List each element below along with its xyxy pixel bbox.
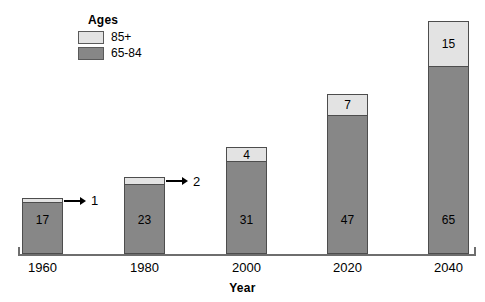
x-axis-baseline [18, 254, 476, 256]
callout-line-icon [64, 200, 80, 202]
bar-value-65-84-2000: 31 [227, 213, 266, 227]
callout-1980: 2 [166, 175, 200, 187]
callout-value-1980: 2 [193, 175, 200, 188]
bar-value-85-plus-2000: 4 [243, 149, 250, 161]
bar-segment-65-84-1980: 23 [124, 184, 165, 254]
x-axis-title: Year [0, 281, 485, 295]
plot-area: 1 1 17 2 2 23 [0, 0, 485, 302]
arrow-right-icon [182, 177, 188, 185]
bar-segment-65-84-1960: 17 [22, 202, 63, 254]
callout-value-1960: 1 [91, 194, 98, 207]
bar-2040: 15 65 [428, 22, 469, 254]
x-tick-label-1980: 1980 [115, 260, 175, 275]
x-tick-label-2020: 2020 [318, 260, 378, 275]
bar-value-65-84-1980: 23 [125, 213, 164, 227]
bar-value-85-plus-2020: 7 [344, 99, 351, 111]
bar-1980: 2 2 23 [124, 178, 165, 254]
arrow-right-icon [80, 197, 86, 205]
bar-2020: 7 47 [327, 95, 368, 254]
bar-segment-65-84-2040: 65 [428, 66, 469, 254]
bar-1960: 1 1 17 [22, 199, 63, 254]
bar-value-85-plus-2040: 15 [442, 38, 455, 50]
bar-value-65-84-2020: 47 [328, 213, 367, 227]
bar-value-65-84-1960: 17 [23, 213, 62, 227]
x-tick-label-2000: 2000 [217, 260, 277, 275]
x-tick-label-2040: 2040 [419, 260, 479, 275]
bar-2000: 4 31 [226, 148, 267, 254]
bar-segment-85-plus-2000: 4 [226, 147, 267, 162]
axis-stub-right [474, 247, 476, 256]
callout-line-icon [166, 180, 182, 182]
callout-1960: 1 [64, 195, 98, 207]
bar-segment-85-plus-2020: 7 [327, 94, 368, 116]
bar-segment-65-84-2000: 31 [226, 161, 267, 254]
stacked-bar-chart: Ages 85+ 65-84 1 1 17 [0, 0, 485, 302]
bar-value-65-84-2040: 65 [429, 213, 468, 227]
x-tick-label-1960: 1960 [13, 260, 73, 275]
bar-segment-65-84-2020: 47 [327, 115, 368, 254]
bar-segment-85-plus-2040: 15 [428, 21, 469, 67]
